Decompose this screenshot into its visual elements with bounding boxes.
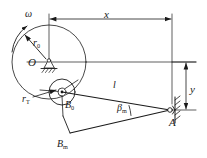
joint-A-pin <box>168 108 173 113</box>
label-y-distance: y <box>190 84 195 95</box>
roller-spoke-down <box>62 96 63 116</box>
label-pin-radius: rT <box>22 94 30 104</box>
beta-angle-arc <box>129 106 131 116</box>
label-crank-radius-subscript: 0 <box>37 42 40 49</box>
label-joint-initial-subscript: 0 <box>71 104 74 111</box>
label-joint-max: Bm <box>57 139 68 149</box>
connecting-rod-extreme <box>70 110 170 133</box>
ground-hatch-O <box>42 69 56 73</box>
pivot-pin <box>47 59 50 62</box>
label-joint-max-subscript: m <box>63 143 68 150</box>
label-link-length: l <box>113 80 116 90</box>
rT-leader-line <box>33 90 56 97</box>
link-to-Bm <box>63 116 70 133</box>
label-angle-beta-subscript: m <box>122 107 127 114</box>
label-x-distance: x <box>104 9 109 20</box>
label-pin-radius-subscript: T <box>26 98 30 105</box>
label-angle-beta: βm <box>117 103 127 113</box>
label-point-a: A <box>169 117 176 128</box>
label-crank-radius: r0 <box>33 38 40 48</box>
diagram-canvas <box>0 0 207 158</box>
connecting-rod-l <box>62 92 170 110</box>
label-pivot-center: O <box>28 57 36 68</box>
omega-rotation-arrow <box>12 26 27 52</box>
label-angular-velocity: ω <box>25 9 32 19</box>
kinematic-diagram: x y ω r0 rT O B0 Bm l βm A <box>0 0 207 158</box>
label-joint-initial: B0 <box>65 100 74 110</box>
